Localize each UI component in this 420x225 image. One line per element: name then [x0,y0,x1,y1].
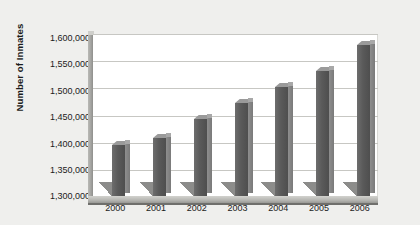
bar [275,87,288,197]
bar-top-face-side [288,82,293,86]
bar [112,145,125,197]
gridline [93,88,378,89]
bar-front-face [153,138,166,197]
bar-top-face-side [370,40,375,44]
y-tick-label: 1,500,000 [36,86,90,96]
bar [357,45,370,197]
y-tick-label: 1,300,000 [36,191,90,201]
bar-front-face [194,119,207,197]
bar-front-face [235,103,248,197]
bar-side-face [207,115,212,193]
bar [235,103,248,197]
bar [194,119,207,197]
bar-front-face [357,45,370,197]
bar-front-face [275,87,288,197]
bar-top-face-side [125,140,130,144]
y-axis-title: Number of Inmates [14,13,25,123]
gridline [93,61,378,62]
y-tick-label: 1,450,000 [36,112,90,122]
y-tick-label: 1,350,000 [36,165,90,175]
bar-side-face [166,134,171,193]
bar-side-face [329,67,334,193]
bar-side-face [370,41,375,193]
y-tick-label: 1,600,000 [36,33,90,43]
bar [153,138,166,197]
bar-top-face-side [166,133,171,137]
bar-top-face-side [207,114,212,118]
bar-front-face [112,145,125,197]
x-tick-label: 2003 [218,203,258,213]
bar-top-face-side [329,66,334,70]
x-tick-label: 2006 [340,203,380,213]
x-tick-label: 2001 [136,203,176,213]
y-tick-label: 1,550,000 [36,59,90,69]
y-tick-label: 1,400,000 [36,139,90,149]
x-tick-label: 2004 [258,203,298,213]
bar [316,71,329,197]
chart-figure: Number of Inmates 1,600,000 1,550,000 1,… [0,0,420,225]
plot-area [93,34,378,197]
bar-top-face-side [248,98,253,102]
bar-side-face [125,141,130,193]
gridline [93,34,378,35]
y-axis-tick-labels: 1,600,000 1,550,000 1,500,000 1,450,000 … [34,0,90,225]
bar-side-face [288,83,293,193]
x-tick-label: 2005 [299,203,339,213]
x-tick-label: 2000 [95,203,135,213]
bar-side-face [248,99,253,193]
x-tick-label: 2002 [177,203,217,213]
bar-front-face [316,71,329,197]
